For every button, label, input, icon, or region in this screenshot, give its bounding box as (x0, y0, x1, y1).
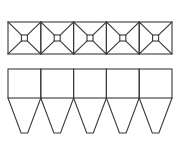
hopper-unit (8, 69, 41, 133)
hopper-silo-diagram (0, 0, 178, 151)
top-view-cell (139, 22, 172, 54)
front-view (8, 69, 172, 133)
top-view-cell (74, 22, 107, 54)
hopper-unit (139, 69, 172, 133)
top-view (8, 22, 172, 54)
top-view-cell (106, 22, 139, 54)
hopper-unit (74, 69, 107, 133)
hopper-unit (41, 69, 74, 133)
top-view-cell (8, 22, 41, 54)
top-view-cell (41, 22, 74, 54)
hopper-unit (106, 69, 139, 133)
